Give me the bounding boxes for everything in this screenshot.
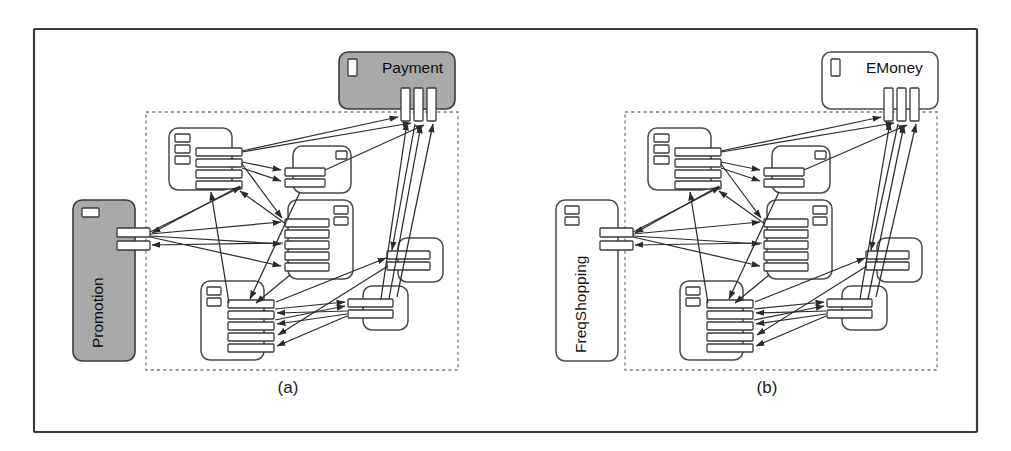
- edge-b-c1-to-c2-1: [721, 162, 760, 170]
- comp-b1-port-1[interactable]: [675, 148, 721, 156]
- panel-b-component-bottom-right[interactable]: [827, 286, 887, 330]
- panel-b-component-right-middle[interactable]: [866, 238, 922, 282]
- comp-a4-icon-1: [207, 287, 221, 295]
- panel-a-component-middle[interactable]: [285, 200, 353, 279]
- comp-a3-port-4[interactable]: [285, 252, 329, 260]
- edge-b-c6-to-c4-3: [756, 316, 826, 346]
- comp-b3-port-2[interactable]: [764, 230, 808, 238]
- comp-b1-icon-2: [654, 145, 669, 153]
- emoney-port-1[interactable]: [884, 88, 893, 121]
- comp-b4-port-3[interactable]: [707, 322, 753, 330]
- panel-b-external-emoney[interactable]: EMoney: [822, 52, 938, 121]
- comp-b3-port-1[interactable]: [764, 219, 808, 227]
- emoney-port-3[interactable]: [910, 88, 919, 121]
- panel-a-component-bottom-left[interactable]: [201, 281, 274, 360]
- comp-b1-port-4[interactable]: [675, 181, 721, 189]
- comp-b4-port-5[interactable]: [707, 344, 753, 352]
- comp-a1-port-4[interactable]: [196, 181, 242, 189]
- panel-b-component-bottom-left[interactable]: [680, 281, 753, 360]
- comp-a1-icon-2: [175, 145, 190, 153]
- comp-b6-port-1[interactable]: [827, 299, 872, 307]
- comp-a5-port-2[interactable]: [387, 262, 430, 270]
- comp-b4-port-2[interactable]: [707, 311, 753, 319]
- edge-a-c1-to-c3: [242, 164, 282, 218]
- comp-b3-icon-2: [813, 217, 827, 225]
- comp-b4-port-4[interactable]: [707, 333, 753, 341]
- comp-b5-port-2[interactable]: [866, 262, 909, 270]
- panel-b-component-middle[interactable]: [764, 200, 832, 279]
- panel-b: EMoney FreqShopping: [556, 52, 938, 397]
- freqshopping-port-2[interactable]: [600, 241, 633, 250]
- comp-b1-port-3[interactable]: [675, 170, 721, 178]
- freqshopping-label: FreqShopping: [572, 256, 589, 353]
- comp-a1-port-3[interactable]: [196, 170, 242, 178]
- panel-a-external-promotion[interactable]: Promotion: [73, 200, 150, 361]
- edge-b-c3-to-c1: [719, 191, 765, 224]
- panel-b-component-top-left[interactable]: [648, 128, 721, 190]
- edge-b-c1-to-freqshopping: [635, 186, 719, 233]
- promotion-component-icon: [82, 208, 99, 217]
- comp-b1-port-2[interactable]: [675, 159, 721, 167]
- comp-a2-icon-1: [336, 151, 347, 159]
- panel-a-component-top-right[interactable]: [285, 146, 351, 193]
- comp-a4-port-5[interactable]: [228, 344, 274, 352]
- comp-a4-port-1[interactable]: [228, 300, 274, 308]
- panel-a-component-right-middle[interactable]: [387, 238, 443, 282]
- panel-a-external-payment[interactable]: Payment: [339, 52, 455, 121]
- comp-a2-port-1[interactable]: [285, 168, 325, 176]
- comp-a5-port-1[interactable]: [387, 251, 430, 259]
- comp-a6-port-2[interactable]: [348, 310, 393, 318]
- comp-a3-port-3[interactable]: [285, 241, 329, 249]
- comp-b3-port-4[interactable]: [764, 252, 808, 260]
- payment-port-2[interactable]: [414, 88, 423, 121]
- comp-a6-body: [363, 286, 408, 330]
- comp-a1-port-1[interactable]: [196, 148, 242, 156]
- comp-a1-icon-3: [175, 156, 190, 164]
- edge-a-c3-to-c1: [240, 191, 286, 224]
- comp-a4-port-2[interactable]: [228, 311, 274, 319]
- edge-b-c1-to-c3: [721, 164, 761, 218]
- panel-b-external-freqshopping[interactable]: FreqShopping: [556, 200, 633, 361]
- comp-a2-port-2[interactable]: [285, 179, 325, 187]
- comp-b3-port-3[interactable]: [764, 241, 808, 249]
- payment-port-3[interactable]: [427, 88, 436, 121]
- comp-a3-port-5[interactable]: [285, 263, 329, 271]
- freqshopping-port-1[interactable]: [600, 228, 633, 237]
- comp-a4-port-4[interactable]: [228, 333, 274, 341]
- comp-b1-icon-1: [654, 134, 669, 142]
- edge-a-c6-to-c4-3: [277, 316, 347, 346]
- promotion-port-2[interactable]: [117, 241, 150, 250]
- emoney-label: EMoney: [866, 59, 923, 76]
- comp-b4-port-1[interactable]: [707, 300, 753, 308]
- panel-a-caption: (a): [278, 378, 299, 397]
- edge-a-c6-to-c4-2: [277, 314, 347, 324]
- comp-a3-port-1[interactable]: [285, 219, 329, 227]
- comp-a6-port-1[interactable]: [348, 299, 393, 307]
- promotion-label: Promotion: [89, 277, 106, 348]
- comp-b4-icon-2: [686, 298, 700, 306]
- emoney-port-2[interactable]: [897, 88, 906, 121]
- comp-a3-icon-1: [334, 206, 348, 214]
- edge-b-c1-to-c2-2: [721, 168, 760, 181]
- edge-a-c1-to-c2-2: [242, 168, 281, 181]
- panel-b-component-top-right[interactable]: [764, 146, 830, 193]
- comp-a3-port-2[interactable]: [285, 230, 329, 238]
- freqshopping-component-icon-1: [565, 206, 579, 214]
- payment-port-1[interactable]: [401, 88, 410, 121]
- promotion-port-1[interactable]: [117, 228, 150, 237]
- panel-a-component-top-left[interactable]: [169, 128, 242, 190]
- comp-b3-port-5[interactable]: [764, 263, 808, 271]
- comp-b4-icon-1: [686, 287, 700, 295]
- comp-a1-port-2[interactable]: [196, 159, 242, 167]
- comp-a4-port-3[interactable]: [228, 322, 274, 330]
- edge-a-c1-to-c2-1: [242, 162, 281, 170]
- comp-a3-icon-2: [334, 217, 348, 225]
- comp-b2-port-2[interactable]: [764, 179, 804, 187]
- comp-a1-icon-1: [175, 134, 190, 142]
- comp-b6-port-2[interactable]: [827, 310, 872, 318]
- panel-a-component-bottom-right[interactable]: [348, 286, 408, 330]
- comp-b5-port-1[interactable]: [866, 251, 909, 259]
- freqshopping-component-icon-2: [565, 217, 579, 225]
- comp-b2-port-1[interactable]: [764, 168, 804, 176]
- comp-b6-body: [842, 286, 887, 330]
